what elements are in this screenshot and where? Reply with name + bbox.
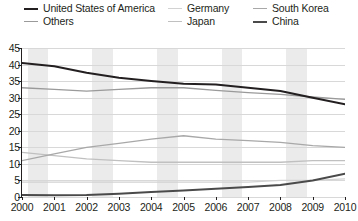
y-axis-tick-mark	[18, 180, 21, 181]
x-axis-tick-mark	[345, 197, 346, 200]
series-line	[22, 63, 345, 104]
legend-swatch-icon	[24, 21, 38, 22]
legend-swatch-icon	[24, 8, 38, 10]
x-axis-tick-mark	[184, 197, 185, 200]
legend-swatch-icon	[253, 21, 267, 23]
y-axis-tick-mark	[18, 81, 21, 82]
legend-swatch-icon	[168, 8, 182, 9]
x-axis-tick-label: 2004	[140, 201, 163, 213]
legend-item[interactable]: China	[253, 16, 299, 27]
chart-legend: United States of AmericaOthersGermanyJap…	[0, 0, 358, 30]
series-line	[22, 179, 345, 182]
y-axis-tick-mark	[18, 197, 21, 198]
x-axis-tick-label: 2002	[75, 201, 98, 213]
y-axis: 051015202530354045	[0, 48, 20, 197]
x-axis-tick-label: 2003	[108, 201, 131, 213]
legend-item-label: Germany	[187, 3, 229, 14]
legend-item[interactable]: Others	[24, 16, 74, 27]
x-axis-tick-label: 2005	[172, 201, 195, 213]
legend-item-label: South Korea	[272, 3, 329, 14]
series-line	[22, 174, 345, 196]
x-axis-tick-label: 2008	[269, 201, 292, 213]
x-axis-tick-label: 2001	[43, 201, 66, 213]
x-axis-tick-mark	[248, 197, 249, 200]
legend-item-label: China	[272, 16, 299, 27]
legend-item-label: Japan	[187, 16, 215, 27]
y-axis-tick-mark	[18, 48, 21, 49]
x-axis-tick-label: 2007	[237, 201, 260, 213]
y-axis-tick-mark	[18, 65, 21, 66]
series-line	[22, 152, 345, 162]
legend-item[interactable]: United States of America	[24, 3, 155, 14]
x-axis-tick-label: 2000	[11, 201, 34, 213]
legend-swatch-icon	[253, 8, 267, 9]
x-axis-tick-label: 2006	[205, 201, 228, 213]
x-axis-tick-mark	[54, 197, 55, 200]
x-axis-tick-label: 2010	[334, 201, 357, 213]
x-axis-tick-mark	[216, 197, 217, 200]
legend-item-label: United States of America	[43, 3, 155, 14]
line-chart: United States of AmericaOthersGermanyJap…	[0, 0, 358, 221]
legend-item[interactable]: Japan	[168, 16, 215, 27]
y-axis-tick-mark	[18, 147, 21, 148]
y-axis-tick-mark	[18, 131, 21, 132]
legend-swatch-icon	[168, 21, 182, 22]
legend-item[interactable]: South Korea	[253, 3, 329, 14]
plot-area	[22, 48, 345, 197]
x-axis-tick-mark	[151, 197, 152, 200]
x-axis: 2000200120022003200420052006200720082009…	[0, 201, 358, 219]
x-axis-tick-mark	[313, 197, 314, 200]
x-axis-tick-mark	[280, 197, 281, 200]
x-axis-tick-mark	[119, 197, 120, 200]
x-axis-tick-mark	[87, 197, 88, 200]
series-lines	[22, 48, 345, 197]
legend-item-label: Others	[43, 16, 74, 27]
x-axis-tick-mark	[22, 197, 23, 200]
y-axis-tick-mark	[18, 98, 21, 99]
legend-item[interactable]: Germany	[168, 3, 229, 14]
y-axis-tick-mark	[18, 114, 21, 115]
y-axis-tick-mark	[18, 164, 21, 165]
x-axis-tick-label: 2009	[301, 201, 324, 213]
